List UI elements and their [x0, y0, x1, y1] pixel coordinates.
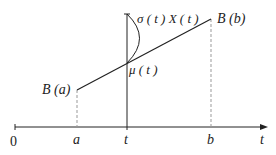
end-point-label: B (b) [217, 12, 245, 26]
bridge-line [77, 19, 211, 90]
tick-label-t: t [124, 133, 128, 147]
start-point-label: B (a) [42, 83, 70, 97]
tick-label-b: b [207, 133, 214, 147]
mean-label: μ ( t ) [129, 63, 158, 76]
tick-label-a: a [73, 133, 80, 147]
axis-label-t: t [260, 133, 264, 147]
spread-label: σ ( t ) X ( t ) [137, 12, 199, 25]
axis-arrow-icon [260, 124, 268, 130]
origin-label: 0 [10, 135, 17, 149]
